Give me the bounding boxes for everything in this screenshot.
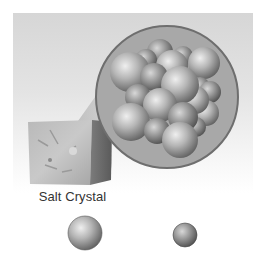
- crystal-label: Salt Crystal: [25, 189, 120, 204]
- salt-crystal-cube: [28, 120, 112, 185]
- diagram-canvas: [0, 0, 257, 253]
- large-ion-sphere: [68, 216, 102, 250]
- small-ion-sphere: [173, 223, 197, 247]
